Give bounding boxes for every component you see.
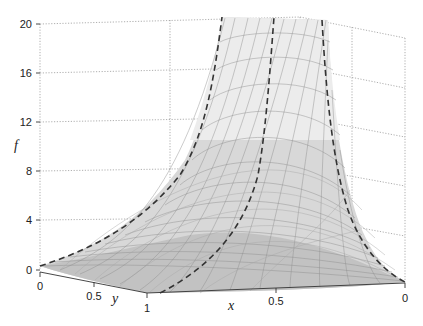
z-tick-12: 12 <box>20 116 32 128</box>
y-tick-0.5: 0.5 <box>86 290 101 302</box>
z-tick-16: 16 <box>20 67 32 79</box>
x-axis-label: x <box>227 298 235 313</box>
x-tick-labels: 0.5 0 <box>268 292 408 307</box>
y-tick-0: 0 <box>37 280 43 292</box>
z-axis-label: f <box>14 138 20 153</box>
z-tick-4: 4 <box>26 214 32 226</box>
z-tick-20: 20 <box>20 18 32 30</box>
x-tick-0: 0 <box>402 292 408 304</box>
surface-mesh <box>40 17 405 293</box>
x-tick-0.5: 0.5 <box>268 295 283 307</box>
z-tick-labels: 20 16 12 8 4 0 <box>20 18 32 276</box>
z-tick-0: 0 <box>26 264 32 276</box>
surface-plot: 20 16 12 8 4 0 0 0.5 1 0.5 0 f y x <box>0 0 423 326</box>
z-tick-8: 8 <box>26 165 32 177</box>
y-tick-1: 1 <box>144 302 150 314</box>
y-axis-label: y <box>110 291 119 306</box>
